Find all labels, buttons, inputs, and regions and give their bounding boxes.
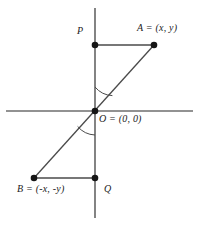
label-point-Q: Q — [104, 183, 111, 194]
point-Q-marker — [92, 175, 99, 182]
label-point-O: O = (0, 0) — [99, 113, 142, 124]
label-point-B: B = (-x, -y) — [17, 183, 64, 194]
point-O-marker — [92, 108, 99, 115]
point-P-marker — [92, 42, 99, 49]
geometry-figure: P A = (x, y) O = (0, 0) Q B = (-x, -y) — [0, 0, 200, 227]
point-B-marker — [31, 175, 38, 182]
point-A-marker — [151, 42, 158, 49]
label-point-P: P — [77, 25, 83, 36]
label-point-A: A = (x, y) — [137, 22, 177, 33]
